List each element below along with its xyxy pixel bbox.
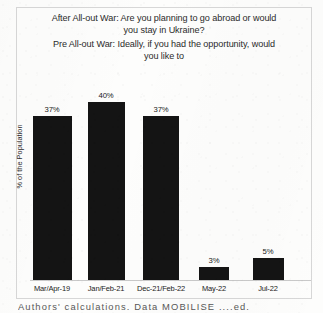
bar-mar-apr-19: 37% xyxy=(33,80,72,280)
bar-rect xyxy=(253,258,284,280)
bar-value-label: 37% xyxy=(129,105,193,114)
bar-jan-feb-21: 40% xyxy=(88,80,125,280)
scanned-chart-page: After All-out War: Are you planning to g… xyxy=(0,0,323,313)
x-axis-baseline xyxy=(30,280,311,281)
bar-rect xyxy=(143,116,179,280)
bar-jul-22: 5% xyxy=(253,80,284,280)
plot-area: 37%40%37%3%5% xyxy=(30,80,310,280)
bar-rect xyxy=(199,267,229,280)
bar-rect xyxy=(88,102,125,280)
bar-value-label: 40% xyxy=(74,91,139,100)
bar-dec-21-feb-22: 37% xyxy=(143,80,179,280)
chart-title-after-war: After All-out War: Are you planning to g… xyxy=(20,12,308,37)
bar-value-label: 37% xyxy=(19,105,86,114)
bar-may-22: 3% xyxy=(199,80,229,280)
bar-rect xyxy=(33,116,72,280)
x-tick-label-4: Jul-22 xyxy=(228,284,308,293)
source-note-text: Authors' calculations. Data MOBILISE ...… xyxy=(18,301,318,312)
chart-title-pre-war: Pre All-out War: Ideally, if you had the… xyxy=(20,38,308,63)
y-axis-label: % of the Population xyxy=(15,97,24,217)
source-note: Authors' calculations. Data MOBILISE ...… xyxy=(18,301,318,313)
chart-title-block: After All-out War: Are you planning to g… xyxy=(20,12,308,63)
bar-value-label: 5% xyxy=(239,247,298,256)
bar-value-label: 3% xyxy=(185,256,243,265)
